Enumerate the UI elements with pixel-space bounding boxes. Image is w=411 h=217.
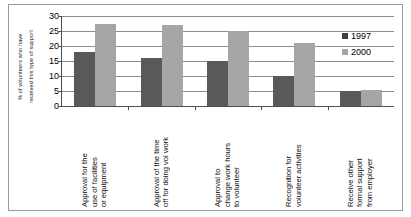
y-axis-tick-labels: 302520151050: [41, 16, 59, 106]
category-label-4-line-2: volunteer activities: [293, 109, 303, 207]
category-label-4: Recognition forvolunteer activities: [260, 109, 326, 207]
bar-group-2: [128, 16, 194, 106]
x-axis-category-labels: Approval for theuse of facilitiesor equi…: [61, 109, 393, 207]
category-label-1-line-1: Approval for the: [80, 109, 90, 207]
bar-2000-group-5: [361, 90, 382, 107]
chart-figure: % of volunteers who have received this t…: [8, 4, 403, 211]
category-label-3-line-1: Approval to: [213, 109, 223, 207]
category-label-5-line-3: from employer: [365, 109, 375, 207]
bar-1997-group-4: [273, 76, 294, 106]
legend-entry-1997: 1997: [342, 28, 388, 44]
bar-1997-group-3: [207, 61, 228, 106]
y-tick-label-30: 30: [41, 12, 59, 21]
y-tick-label-25: 25: [41, 27, 59, 36]
category-label-5: Receive otherformal supportfrom employer: [327, 109, 393, 207]
y-tickmark-0: [59, 106, 62, 107]
category-label-5-line-1: Receive other: [346, 109, 356, 207]
category-label-1-line-2: use of facilities: [89, 109, 99, 207]
category-label-1-line-3: or equipment: [99, 109, 109, 207]
chart-legend: 1997 2000: [342, 28, 388, 60]
y-axis-title-line-2: received this type of support: [26, 7, 37, 127]
y-tick-label-0: 0: [41, 102, 59, 111]
category-label-3: Approval tochange work hoursto volunteer: [194, 109, 260, 207]
y-axis-title-line-1: % of volunteers who have: [15, 7, 26, 127]
category-label-5-line-2: formal support: [355, 109, 365, 207]
category-label-1: Approval for theuse of facilitiesor equi…: [61, 109, 127, 207]
category-label-3-line-2: change work hours: [222, 109, 232, 207]
y-tick-label-15: 15: [41, 57, 59, 66]
bar-1997-group-1: [74, 52, 95, 106]
bar-group-4: [261, 16, 327, 106]
plot-area: 1997 2000: [61, 16, 394, 107]
y-tick-label-10: 10: [41, 72, 59, 81]
legend-swatch-1997: [342, 33, 348, 39]
bar-group-3: [195, 16, 261, 106]
caption-strip: [0, 212, 411, 217]
legend-label-2000: 2000: [351, 48, 371, 57]
category-label-2: Approval of the timeoff for doing vol wo…: [127, 109, 193, 207]
bar-1997-group-2: [141, 58, 162, 106]
legend-entry-2000: 2000: [342, 44, 388, 60]
legend-label-1997: 1997: [351, 32, 371, 41]
bar-2000-group-2: [162, 25, 183, 106]
y-axis-title: % of volunteers who have received this t…: [15, 7, 41, 127]
legend-swatch-2000: [342, 49, 348, 55]
bar-1997-group-5: [340, 91, 361, 106]
category-label-3-line-3: to volunteer: [232, 109, 242, 207]
category-label-2-line-2: off for doing vol work: [161, 109, 171, 207]
bar-2000-group-4: [294, 43, 315, 106]
category-label-2-line-1: Approval of the time: [151, 109, 161, 207]
bar-2000-group-3: [228, 31, 249, 106]
bar-2000-group-1: [95, 24, 116, 107]
y-tick-label-20: 20: [41, 42, 59, 51]
category-label-4-line-1: Recognition for: [284, 109, 294, 207]
y-tick-label-5: 5: [41, 87, 59, 96]
bar-group-1: [62, 16, 128, 106]
